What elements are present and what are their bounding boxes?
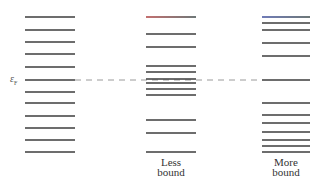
less-bound-label: Less bound — [141, 157, 201, 177]
column-more-bound — [262, 17, 310, 152]
fermi-subscript: F — [14, 80, 17, 86]
more-bound-label: More bound — [256, 157, 316, 177]
less-bound-label-line2: bound — [141, 167, 201, 177]
column-less-bound — [146, 17, 196, 152]
column-reference — [25, 17, 75, 152]
fermi-energy-label: εF — [10, 73, 17, 86]
more-bound-label-line2: bound — [256, 167, 316, 177]
